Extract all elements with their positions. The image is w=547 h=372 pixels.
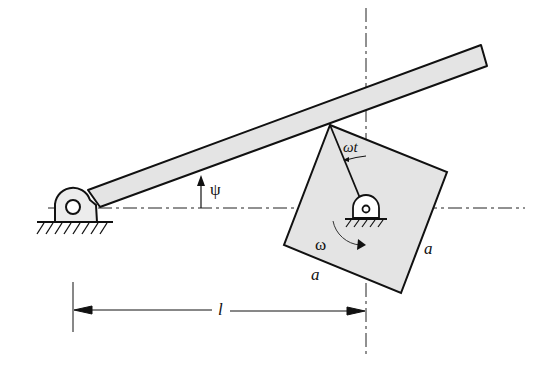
side-a-bottom-label: a [311, 266, 320, 283]
mechanism-diagram: ψ ωt ω a a l [0, 0, 547, 372]
diagram-drawing [0, 0, 547, 372]
omega-label: ω [315, 236, 326, 253]
side-a-right-label: a [424, 240, 433, 257]
psi-label: ψ [210, 181, 221, 198]
omega-t-label: ωt [343, 140, 358, 155]
ground-hatch-left [37, 223, 107, 234]
length-l-label: l [218, 301, 223, 318]
